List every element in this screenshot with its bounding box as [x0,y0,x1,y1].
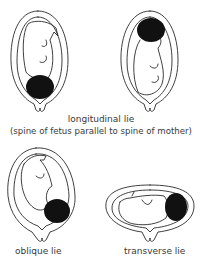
caption-transverse-lie: transverse lie [124,246,185,257]
caption-longitudinal-note: (spine of fetus parallel to spine of mot… [0,126,202,137]
uterus-oblique [8,148,75,241]
fetal-head-lower-right [44,199,70,223]
caption-oblique-lie: oblique lie [15,246,62,257]
caption-longitudinal-lie: longitudinal lie [0,114,202,125]
fetal-head-right [165,193,187,221]
fetal-head-bottom [26,75,54,99]
fetal-head-top [137,18,165,42]
